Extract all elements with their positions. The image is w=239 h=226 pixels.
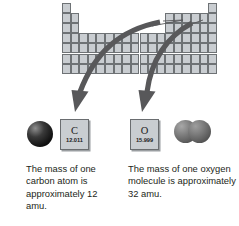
periodic-table-cell	[71, 64, 80, 74]
periodic-table-cell	[140, 33, 149, 43]
periodic-table-cell	[105, 33, 114, 43]
oxygen-molecule-sphere-right	[188, 120, 211, 143]
periodic-table-cell	[182, 33, 191, 43]
periodic-table-cell	[157, 64, 166, 74]
periodic-table-cell	[71, 43, 80, 53]
periodic-table-cell	[165, 64, 174, 74]
periodic-table-cell	[71, 13, 80, 23]
periodic-table-cell	[165, 13, 174, 23]
periodic-table-cell	[191, 64, 200, 74]
periodic-table-cell	[191, 13, 200, 23]
periodic-table-cell	[174, 54, 183, 64]
element-mass-oxygen: 15.999	[136, 137, 153, 144]
element-tile-oxygen[interactable]: O 15.999	[130, 119, 159, 150]
element-symbol-carbon: C	[71, 125, 78, 137]
periodic-table-cell	[96, 54, 105, 64]
periodic-table-cell	[208, 54, 217, 64]
periodic-table-cell	[200, 54, 209, 64]
periodic-table-cell	[157, 54, 166, 64]
periodic-table-cell	[200, 23, 209, 33]
periodic-table-cell	[208, 33, 217, 43]
element-mass-carbon: 12.011	[66, 137, 83, 144]
periodic-table-cell	[62, 54, 71, 64]
periodic-table-cell	[105, 64, 114, 74]
periodic-table-cell	[140, 43, 149, 53]
caption-oxygen: The mass of one oxygen molecule is appro…	[128, 163, 236, 200]
periodic-table-cell	[79, 43, 88, 53]
periodic-table-cell	[200, 33, 209, 43]
periodic-table-cell	[191, 33, 200, 43]
periodic-table-cell	[174, 64, 183, 74]
periodic-table-cell	[122, 33, 131, 43]
element-tile-carbon[interactable]: C 12.011	[60, 119, 89, 150]
periodic-table-cell	[157, 33, 166, 43]
periodic-table-cell	[182, 64, 191, 74]
periodic-table-cell	[182, 43, 191, 53]
periodic-table-cell	[140, 54, 149, 64]
periodic-table-cell	[62, 33, 71, 43]
periodic-table-cell	[174, 23, 183, 33]
periodic-table-cell	[131, 43, 140, 53]
periodic-table-cell	[208, 23, 217, 33]
periodic-table-cell	[131, 64, 140, 74]
periodic-table-cell	[79, 54, 88, 64]
periodic-table-cell	[174, 13, 183, 23]
periodic-table-cell	[88, 43, 97, 53]
periodic-table-cell	[62, 64, 71, 74]
periodic-table-cell	[79, 64, 88, 74]
periodic-table-cell	[174, 33, 183, 43]
periodic-table-cell	[88, 54, 97, 64]
periodic-table-cell	[165, 33, 174, 43]
periodic-table-cell	[191, 54, 200, 64]
periodic-table-cell	[88, 33, 97, 43]
periodic-table-cell	[122, 43, 131, 53]
periodic-table-cell	[71, 33, 80, 43]
periodic-table-cell	[208, 3, 217, 13]
periodic-table-cell	[148, 43, 157, 53]
periodic-table-cell	[200, 43, 209, 53]
periodic-table-cell	[79, 33, 88, 43]
periodic-table-cell	[148, 33, 157, 43]
periodic-table-cell	[88, 64, 97, 74]
periodic-table-cell	[71, 54, 80, 64]
periodic-table-cell	[131, 54, 140, 64]
periodic-table-cell	[208, 43, 217, 53]
mass-comparison-figure: C 12.011 O 15.999 The mass of one carbon…	[0, 0, 239, 226]
periodic-table-cell	[122, 64, 131, 74]
periodic-table-cell	[148, 54, 157, 64]
periodic-table-cell	[62, 23, 71, 33]
periodic-table-cell	[122, 54, 131, 64]
periodic-table-cell	[62, 43, 71, 53]
element-symbol-oxygen: O	[141, 125, 149, 137]
periodic-table-cell	[165, 43, 174, 53]
periodic-table-cell	[157, 43, 166, 53]
periodic-table-cell	[114, 43, 123, 53]
periodic-table-cell	[191, 23, 200, 33]
periodic-table-cell	[200, 64, 209, 74]
carbon-atom-model	[27, 121, 53, 147]
periodic-table-cell	[174, 43, 183, 53]
periodic-table-cell	[114, 33, 123, 43]
periodic-table-cell	[148, 64, 157, 74]
periodic-table-cell	[71, 23, 80, 33]
periodic-table-cell	[131, 33, 140, 43]
periodic-table-cell	[182, 54, 191, 64]
periodic-table-cell	[208, 13, 217, 23]
periodic-table-cell	[208, 64, 217, 74]
periodic-table-cell	[96, 43, 105, 53]
periodic-table-cell	[182, 23, 191, 33]
periodic-table-cell	[182, 13, 191, 23]
periodic-table-cell	[62, 3, 71, 13]
periodic-table-cell	[105, 43, 114, 53]
periodic-table-cell	[191, 43, 200, 53]
periodic-table-cell	[62, 13, 71, 23]
periodic-table-cell	[165, 23, 174, 33]
periodic-table-cell	[114, 64, 123, 74]
caption-carbon: The mass of one carbon atom is approxima…	[26, 163, 110, 213]
periodic-table-cell	[105, 54, 114, 64]
periodic-table-cell	[96, 33, 105, 43]
periodic-table-cell	[114, 54, 123, 64]
periodic-table-cell	[165, 54, 174, 64]
periodic-table-cell	[200, 13, 209, 23]
periodic-table	[62, 3, 217, 74]
